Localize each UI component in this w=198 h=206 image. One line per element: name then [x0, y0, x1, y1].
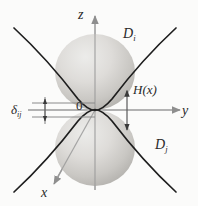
gap-subscript: ij: [17, 110, 21, 119]
region-lower-subscript: j: [165, 144, 167, 154]
region-lower-letter: D: [155, 137, 165, 152]
gap-measure-label: δij: [11, 103, 22, 119]
y-axis-label: y: [182, 104, 188, 118]
region-upper-subscript: i: [133, 33, 135, 43]
region-label-upper: Di: [123, 27, 136, 42]
region-upper-letter: D: [123, 26, 133, 41]
z-axis-label: z: [78, 8, 83, 22]
height-measure-label: H(x): [133, 83, 157, 96]
figure-container: z y x 0 Di Dj H(x) δij: [0, 0, 198, 206]
diagram-canvas: [0, 0, 198, 206]
x-axis-label: x: [41, 186, 47, 200]
region-label-lower: Dj: [155, 138, 168, 153]
origin-label: 0: [76, 99, 83, 112]
